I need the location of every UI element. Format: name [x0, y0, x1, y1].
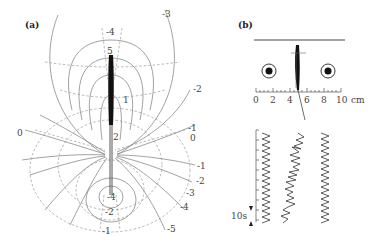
svg-text:2: 2: [113, 132, 119, 142]
panel-a: (a): [17, 9, 206, 236]
panel-a-label: (a): [25, 20, 39, 30]
trace-right: [321, 133, 329, 223]
svg-text:10: 10: [336, 95, 348, 105]
svg-text:-1: -1: [197, 161, 206, 171]
svg-text:-3: -3: [162, 9, 171, 19]
fish-icon: [295, 45, 300, 90]
svg-text:-2: -2: [105, 207, 114, 217]
svg-text:-5: -5: [167, 224, 176, 234]
svg-text:-2: -2: [193, 84, 202, 94]
svg-text:-1: -1: [102, 226, 111, 236]
svg-text:8: 8: [321, 95, 327, 105]
svg-text:-3: -3: [186, 188, 195, 198]
svg-text:2: 2: [270, 95, 276, 105]
trace-left: [262, 133, 270, 223]
svg-text:5: 5: [107, 46, 113, 56]
trace-middle: [281, 133, 304, 223]
svg-text:-4: -4: [180, 202, 189, 212]
panel-b-label: (b): [238, 20, 253, 30]
svg-text:0: 0: [17, 128, 23, 138]
svg-text:-4: -4: [107, 192, 116, 202]
svg-text:-1: -1: [188, 123, 197, 133]
electrode-left-icon: [262, 64, 276, 78]
svg-text:4: 4: [287, 95, 293, 105]
time-scale: 10s: [231, 130, 259, 226]
fish-body-icon: [108, 55, 114, 125]
figure-svg: (a): [0, 0, 382, 245]
svg-text:10s: 10s: [231, 211, 247, 221]
svg-text:-4: -4: [106, 27, 115, 37]
svg-text:-2: -2: [196, 176, 205, 186]
ruler: 0 2 4 6 8 10 cm: [253, 88, 365, 105]
svg-text:0: 0: [253, 95, 259, 105]
svg-text:cm: cm: [351, 95, 365, 105]
svg-text:6: 6: [304, 95, 310, 105]
svg-text:0: 0: [190, 133, 196, 143]
panel-b: (b): [231, 20, 365, 226]
svg-text:1: 1: [123, 95, 129, 105]
electrode-right-icon: [321, 64, 335, 78]
